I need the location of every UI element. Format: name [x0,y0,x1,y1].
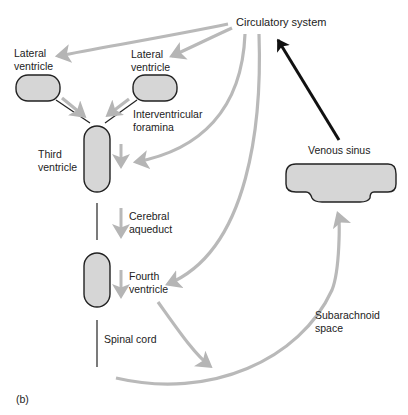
label-lateral-ventricle-right: Lateral ventricle [131,48,170,74]
arrow-circ-to-fourth-ventricle [168,34,259,284]
label-circulatory-system: Circulatory system [236,16,326,29]
csf-flow-diagram [0,0,408,415]
fourth-ventricle-shape [84,253,110,307]
left-foramen-line [56,100,90,123]
label-interventricular-foramina: Interventricular foramina [133,108,202,134]
arrow-venous-to-circulatory [278,40,339,140]
arrow-fourth-to-subarachnoid [158,302,210,366]
label-spinal-cord: Spinal cord [104,333,157,346]
label-lateral-ventricle-left: Lateral ventricle [14,47,53,73]
left-lateral-ventricle-shape [16,75,60,101]
third-ventricle-shape [84,126,110,192]
label-fourth-ventricle: Fourth ventricle [129,270,168,296]
label-third-ventricle: Third ventricle [38,148,77,174]
figure-label: (b) [16,393,29,406]
arrow-subarachnoid-to-venous-sinus [116,214,339,384]
label-cerebral-aqueduct: Cerebral aqueduct [129,210,172,236]
right-lateral-ventricle-shape [133,75,177,101]
venous-sinus-shape [286,164,396,202]
label-subarachnoid-space: Subarachnoid space [315,309,380,335]
label-venous-sinus: Venous sinus [308,144,370,157]
